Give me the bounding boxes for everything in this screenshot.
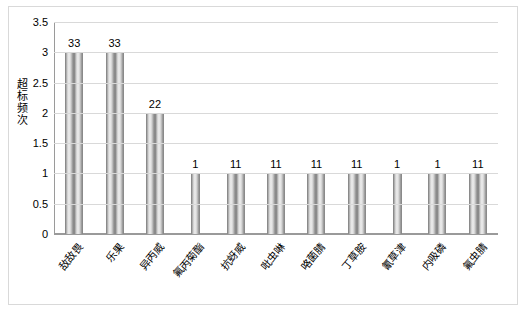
- bar-group: 11氟虫腈: [458, 22, 498, 234]
- bar-group: 1氰草津: [377, 22, 417, 234]
- chart-container: 超标频次 33敌敌畏33乐果22异丙威1氟丙菊酯11抗蚜威11吡虫啉11咯菌腈1…: [0, 0, 526, 311]
- bar-group: 11抗蚜威: [215, 22, 255, 234]
- bar-group: 11吡虫啉: [256, 22, 296, 234]
- bar-value-label: 11: [472, 158, 483, 170]
- bar-value-label: 1: [192, 158, 198, 170]
- bar-value-label: 11: [230, 158, 241, 170]
- y-gridline: [54, 22, 498, 23]
- y-gridline: [54, 204, 498, 205]
- bar-series: 33敌敌畏33乐果22异丙威1氟丙菊酯11抗蚜威11吡虫啉11咯菌腈11丁草胺1…: [54, 22, 498, 234]
- y-axis-tick-label: 2.5: [33, 77, 48, 89]
- bar-group: 22异丙威: [135, 22, 175, 234]
- bar-value-label: 1: [434, 158, 440, 170]
- y-gridline: [54, 173, 498, 174]
- y-gridline: [54, 143, 498, 144]
- bar-value-label: 33: [108, 37, 120, 49]
- y-axis-tick-label: 3: [42, 46, 48, 58]
- bar-group: 1氟丙菊酯: [175, 22, 215, 234]
- bar-group: 1内吸磷: [417, 22, 457, 234]
- bar-group: 11咯菌腈: [296, 22, 336, 234]
- plot-area: 33敌敌畏33乐果22异丙威1氟丙菊酯11抗蚜威11吡虫啉11咯菌腈11丁草胺1…: [54, 22, 498, 234]
- y-axis-tick-label: 1: [42, 167, 48, 179]
- bar-group: 33乐果: [94, 22, 134, 234]
- y-gridline: [54, 113, 498, 114]
- bar-group: 11丁草胺: [337, 22, 377, 234]
- y-gridline: [54, 52, 498, 53]
- bar-value-label: 11: [311, 158, 322, 170]
- bar-value-label: 22: [149, 98, 161, 110]
- y-axis-tick-label: 1.5: [33, 137, 48, 149]
- y-axis-tick-label: 2: [42, 107, 48, 119]
- bar-group: 33敌敌畏: [54, 22, 94, 234]
- bar-value-label: 1: [394, 158, 400, 170]
- bar-value-label: 11: [270, 158, 281, 170]
- bar-value-label: 11: [351, 158, 362, 170]
- bar-value-label: 33: [68, 37, 80, 49]
- y-axis-label: 超标频次: [14, 78, 30, 126]
- y-gridline: [54, 234, 498, 235]
- y-axis-tick-label: 0: [42, 228, 48, 240]
- y-gridline: [54, 83, 498, 84]
- y-axis-tick-label: 0.5: [33, 198, 48, 210]
- y-axis-tick-label: 3.5: [33, 16, 48, 28]
